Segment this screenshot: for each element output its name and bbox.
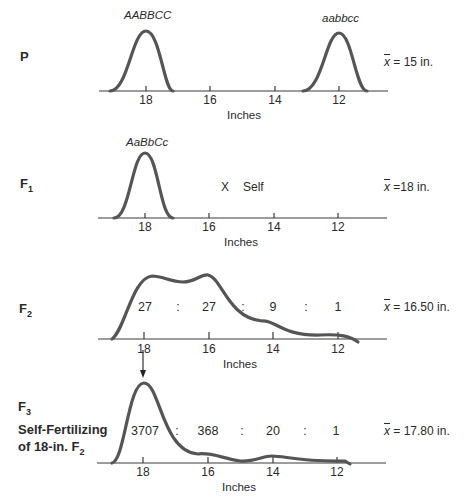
- tick-12: 12: [330, 465, 343, 479]
- mean-f3: x = 17.80 in.: [384, 424, 450, 438]
- ratio-sep: :: [176, 300, 179, 314]
- ratio-sep: :: [241, 300, 244, 314]
- tick-14: 14: [268, 93, 281, 107]
- generation-label-f1: F1: [20, 176, 33, 194]
- ratio-value: 27: [202, 300, 216, 314]
- genotype-label-f1: AaBbCc: [126, 136, 168, 148]
- ratio-sep: :: [240, 424, 243, 438]
- ratio-sep: :: [303, 424, 306, 438]
- tick-18: 18: [138, 220, 151, 234]
- ratio-value: 20: [266, 424, 280, 438]
- generation-label-f3: F3 Self-Fertilizing of 18-in. F2: [18, 398, 108, 460]
- tick-18: 18: [139, 93, 152, 107]
- tick-18: 18: [137, 342, 150, 356]
- x-axis-label: Inches: [223, 358, 257, 370]
- ratio-value: 1: [335, 300, 342, 314]
- tick-12: 12: [331, 342, 344, 356]
- tick-12: 12: [331, 220, 344, 234]
- ratio-value: 27: [138, 300, 152, 314]
- mean-p: x = 15 in.: [384, 55, 433, 69]
- generation-label-f2: F2: [19, 301, 32, 319]
- mean-value: = 15 in.: [390, 55, 433, 69]
- genotype-label-recessive: aabbcc: [322, 12, 359, 24]
- ratio-sep: :: [304, 300, 307, 314]
- cross-symbol: X: [221, 180, 229, 194]
- genotype-label-dominant: AABBCC: [124, 9, 171, 21]
- x-axis-label: Inches: [222, 481, 256, 493]
- tick-16: 16: [201, 465, 214, 479]
- mean-f2: x = 16.50 in.: [384, 300, 450, 314]
- tick-14: 14: [266, 342, 279, 356]
- x-axis-label: Inches: [224, 236, 258, 248]
- x-axis-label: Inches: [227, 109, 261, 121]
- tick-18: 18: [136, 465, 149, 479]
- ratio-value: 9: [270, 300, 277, 314]
- f1-curve: [114, 153, 173, 218]
- ratio-value: 3707: [131, 424, 159, 438]
- tick-14: 14: [267, 220, 280, 234]
- self-label: Self: [243, 180, 264, 194]
- mean-f1: x =18 in.: [384, 180, 430, 194]
- arrow-down-icon: [140, 370, 146, 378]
- p-curve-aabbcc-recessive: [303, 33, 367, 91]
- p-curve-aabbcc-dominant: [110, 31, 173, 91]
- tick-14: 14: [266, 465, 279, 479]
- generation-label-p: P: [20, 49, 29, 64]
- tick-12: 12: [332, 93, 345, 107]
- tick-16: 16: [202, 220, 215, 234]
- tick-16: 16: [202, 342, 215, 356]
- tick-16: 16: [203, 93, 216, 107]
- ratio-sep: :: [175, 424, 178, 438]
- ratio-value: 1: [333, 424, 340, 438]
- ratio-value: 368: [198, 424, 219, 438]
